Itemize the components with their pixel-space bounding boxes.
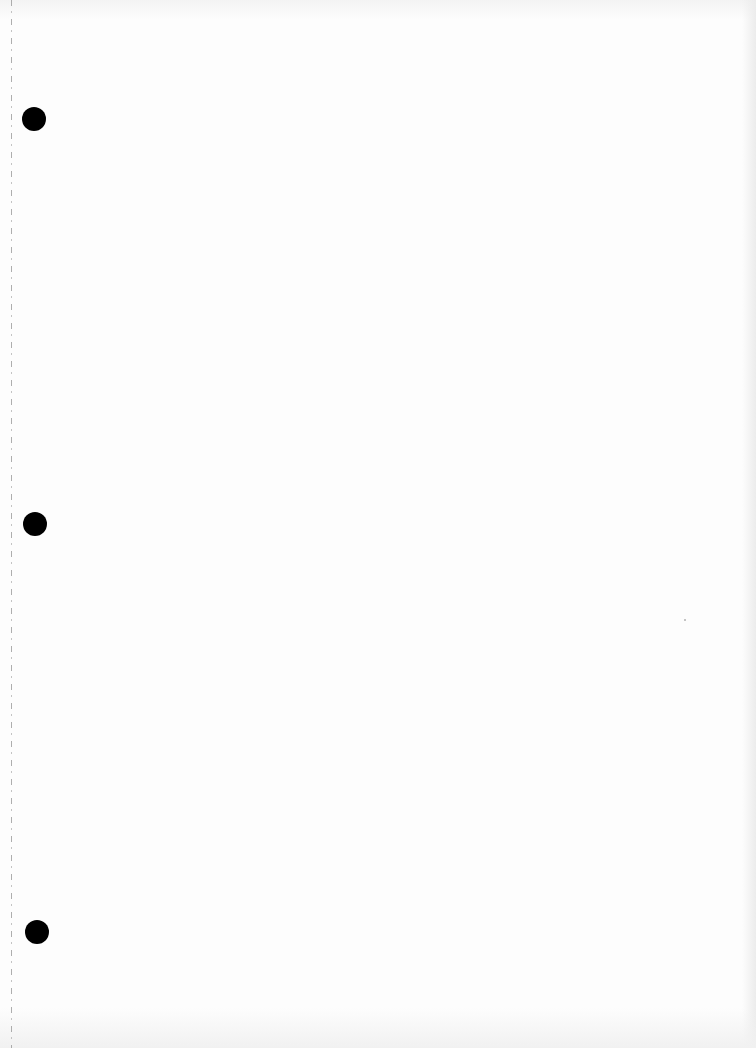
punch-hole-middle (23, 512, 47, 536)
right-edge-shadow (742, 0, 756, 1048)
top-edge-shadow (0, 0, 756, 20)
scanned-page (0, 0, 756, 1048)
left-margin-scan-line (11, 0, 12, 1048)
punch-hole-bottom (25, 920, 49, 944)
punch-hole-top (22, 107, 46, 131)
scan-speck (684, 619, 686, 621)
bottom-edge-shadow (0, 1008, 756, 1048)
